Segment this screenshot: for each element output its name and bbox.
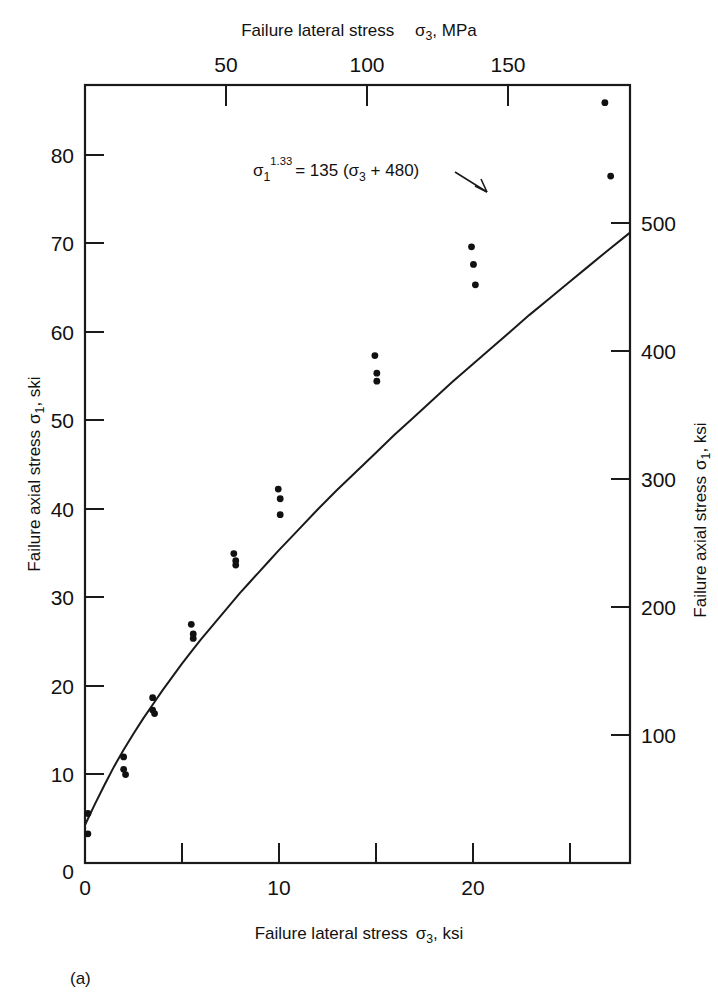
left-tick-label-30: 30 — [51, 586, 74, 609]
right-axis-title: Failure axial stressσ1, ksi — [691, 422, 713, 617]
data-point — [85, 830, 92, 837]
figure-container: Failure lateral stress σ3, MPa 50 100 15… — [0, 0, 718, 1004]
plot-frame — [85, 85, 630, 863]
right-tick-label-200: 200 — [641, 596, 676, 619]
top-axis-title: Failure lateral stress σ3, MPa — [241, 21, 477, 43]
left-tick-label-60: 60 — [51, 321, 74, 344]
panel-label: (a) — [70, 969, 91, 988]
left-tick-label-70: 70 — [51, 232, 74, 255]
data-point — [601, 99, 608, 106]
bottom-tick-labels: 0 10 20 — [79, 876, 485, 899]
left-tick-label-10: 10 — [51, 763, 74, 786]
data-point — [607, 173, 614, 180]
data-point — [151, 710, 158, 717]
data-point — [468, 243, 475, 250]
left-tick-label-0: 0 — [62, 860, 74, 883]
data-point — [149, 694, 156, 701]
left-tick-label-80: 80 — [51, 144, 74, 167]
top-tick-label-50: 50 — [214, 53, 237, 76]
left-tick-labels: 0 10 20 30 40 50 60 70 80 — [51, 144, 74, 883]
right-axis-ticks — [611, 223, 630, 735]
top-tick-labels: 50 100 150 — [214, 53, 525, 76]
bottom-tick-label-0: 0 — [79, 876, 91, 899]
left-tick-label-40: 40 — [51, 498, 74, 521]
right-tick-labels: 100 200 300 400 500 — [641, 212, 676, 747]
data-point — [277, 511, 284, 518]
data-point — [232, 562, 239, 569]
right-tick-label-500: 500 — [641, 212, 676, 235]
left-tick-label-50: 50 — [51, 409, 74, 432]
top-tick-label-150: 150 — [490, 53, 525, 76]
bottom-axis-ticks — [85, 843, 570, 863]
data-points-group — [85, 99, 615, 837]
bottom-tick-label-20: 20 — [461, 876, 484, 899]
bottom-axis-title: Failure lateral stressσ3, ksi — [255, 924, 464, 946]
data-point — [120, 754, 127, 761]
left-axis-ticks — [85, 155, 104, 863]
data-point — [275, 486, 282, 493]
top-axis-ticks — [226, 85, 508, 106]
right-tick-label-100: 100 — [641, 724, 676, 747]
top-tick-label-100: 100 — [349, 53, 384, 76]
top-axis-title-text: Failure lateral stress — [241, 21, 394, 40]
bottom-tick-label-10: 10 — [267, 876, 290, 899]
data-point — [85, 810, 92, 817]
right-tick-label-300: 300 — [641, 468, 676, 491]
data-point — [230, 550, 237, 557]
data-point — [277, 495, 284, 502]
data-point — [472, 281, 479, 288]
data-point — [122, 771, 129, 778]
data-point — [470, 261, 477, 268]
chart-svg: Failure lateral stress σ3, MPa 50 100 15… — [0, 0, 718, 1004]
data-point — [371, 352, 378, 359]
data-point — [190, 635, 197, 642]
data-point — [373, 378, 380, 385]
data-point — [373, 370, 380, 377]
fit-equation-annotation: σ11.33= 135 (σ3 + 480) — [253, 155, 419, 184]
right-tick-label-400: 400 — [641, 340, 676, 363]
left-axis-title: Failure axial stressσ1, ski — [25, 376, 47, 571]
fit-curve — [85, 233, 630, 825]
left-tick-label-20: 20 — [51, 675, 74, 698]
data-point — [188, 621, 195, 628]
